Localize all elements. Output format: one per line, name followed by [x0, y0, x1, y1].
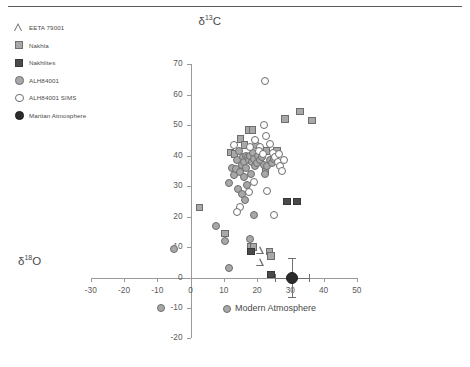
data-point-alh84001-sims [263, 187, 271, 195]
data-point-alh84001-sims [246, 143, 254, 151]
y-tick [187, 308, 191, 309]
y-tick-label: 0 [151, 272, 183, 282]
data-point-alh84001 [157, 304, 165, 312]
x-tick [324, 278, 325, 282]
data-point-alh84001-sims [270, 211, 278, 219]
data-point-nakhlites [283, 198, 291, 206]
y-tick-label: -10 [151, 302, 183, 312]
x-axis-title: δ18O [18, 254, 41, 267]
y-tick-label: 50 [151, 119, 183, 129]
data-point-alh84001 [225, 179, 233, 187]
data-point-nakhla [296, 108, 304, 116]
data-point-alh84001-sims [262, 132, 270, 140]
data-point-alh84001 [212, 222, 220, 230]
x-tick [124, 278, 125, 282]
y-axis-line [191, 64, 192, 338]
y-tick-label: 40 [151, 150, 183, 160]
data-point-alh84001 [246, 235, 254, 243]
y-tick [187, 217, 191, 218]
y-tick [187, 338, 191, 339]
y-tick-label: 60 [151, 89, 183, 99]
data-point-alh84001 [241, 196, 249, 204]
y-error-cap-bottom [288, 297, 296, 298]
y-error-cap-top [288, 258, 296, 259]
data-point-alh84001-sims [233, 208, 241, 216]
data-point-alh84001-sims [266, 140, 274, 148]
data-point-alh84001 [221, 237, 229, 245]
x-error-cap-left [275, 274, 276, 282]
y-tick [187, 95, 191, 96]
x-tick [257, 278, 258, 282]
data-point-nakhlites [267, 271, 275, 279]
y-tick [187, 125, 191, 126]
y-tick-label: 20 [151, 211, 183, 221]
scatter-plot-area: -30-20-1001020304050-20-1001020304050607… [0, 0, 470, 367]
data-point-alh84001 [170, 245, 178, 253]
chart-figure: EETA 79001NakhlaNakhlitesALH84001ALH8400… [0, 0, 470, 367]
data-point-alh84001 [223, 305, 231, 313]
x-tick [224, 278, 225, 282]
data-point-alh84001-sims [230, 141, 238, 149]
data-point-alh84001-sims [278, 167, 286, 175]
x-tick [91, 278, 92, 282]
y-axis-title: δ13C [199, 14, 222, 27]
y-tick-label: 70 [151, 58, 183, 68]
data-point-alh84001-sims [280, 156, 288, 164]
x-error-cap-right [309, 274, 310, 282]
y-tick [187, 247, 191, 248]
data-point-nakhla [308, 117, 316, 125]
y-tick [187, 278, 191, 279]
y-tick-label: 30 [151, 180, 183, 190]
x-tick [191, 278, 192, 282]
data-point-alh84001-sims [260, 121, 268, 129]
data-point-nakhla [281, 115, 289, 123]
data-point-nakhla [249, 126, 257, 134]
data-point-alh84001 [247, 170, 255, 178]
data-point-alh84001 [225, 264, 233, 272]
data-point-nakhla [267, 252, 275, 260]
x-tick-label: 50 [337, 285, 377, 295]
data-point-alh84001 [250, 211, 258, 219]
data-point-nakhlites [247, 248, 255, 256]
x-tick [357, 278, 358, 282]
modern-atmosphere-annotation: Modern Atmosphere [235, 303, 316, 313]
data-point-nakhlites [293, 198, 301, 206]
data-point-alh84001-sims [245, 188, 253, 196]
y-tick [187, 156, 191, 157]
data-point-alh84001-sims [261, 77, 269, 85]
data-point-alh84001-sims [250, 178, 258, 186]
data-point-alh84001 [261, 170, 269, 178]
data-point-nakhla [196, 204, 204, 212]
y-tick [187, 186, 191, 187]
y-tick [187, 64, 191, 65]
y-tick-label: -20 [151, 332, 183, 342]
martian-atmosphere-point [286, 272, 298, 284]
